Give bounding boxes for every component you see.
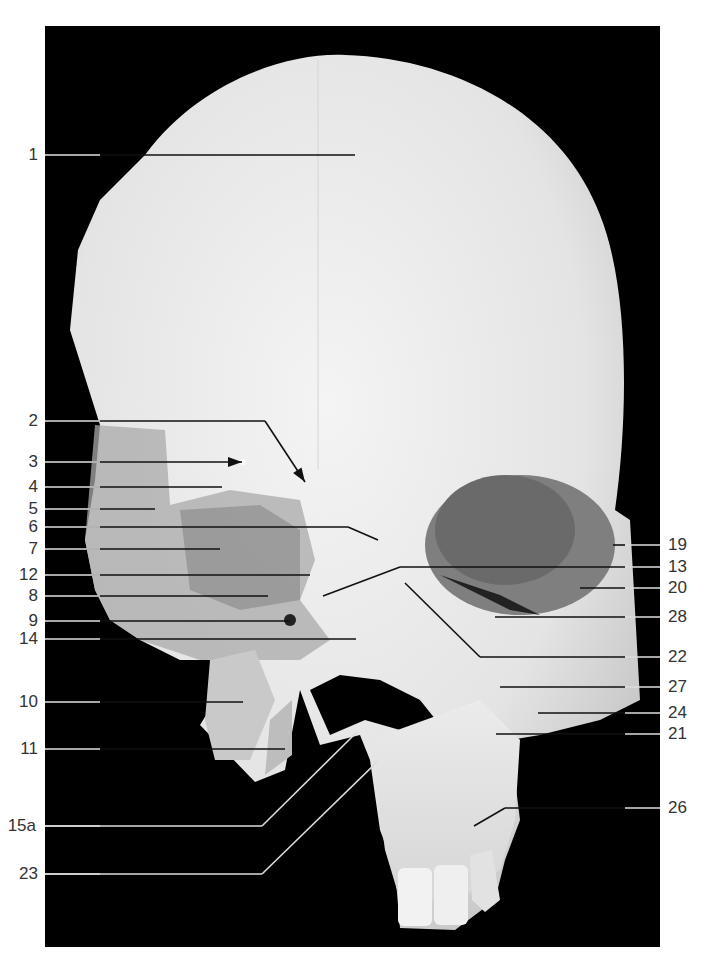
label-19: 19	[668, 536, 687, 553]
label-20: 20	[668, 579, 687, 596]
label-11: 11	[8, 740, 38, 757]
label-1: 1	[8, 146, 38, 163]
label-13: 13	[668, 558, 687, 575]
label-14: 14	[8, 630, 38, 647]
label-3: 3	[8, 453, 38, 470]
label-24: 24	[668, 704, 687, 721]
label-2: 2	[8, 412, 38, 429]
leader-lines	[0, 0, 704, 964]
label-5: 5	[8, 500, 38, 517]
label-4: 4	[8, 478, 38, 495]
label-26: 26	[668, 799, 687, 816]
label-21: 21	[668, 725, 687, 742]
label-15a: 15a	[6, 817, 36, 834]
label-12: 12	[8, 566, 38, 583]
label-10: 10	[8, 693, 38, 710]
skull-diagram: 1234567128914101115a23191320282227242126	[0, 0, 704, 964]
label-23: 23	[8, 865, 38, 882]
label-7: 7	[8, 540, 38, 557]
label-9: 9	[8, 612, 38, 629]
label-6: 6	[8, 518, 38, 535]
label-27: 27	[668, 678, 687, 695]
label-22: 22	[668, 648, 687, 665]
label-28: 28	[668, 608, 687, 625]
label-8: 8	[8, 587, 38, 604]
